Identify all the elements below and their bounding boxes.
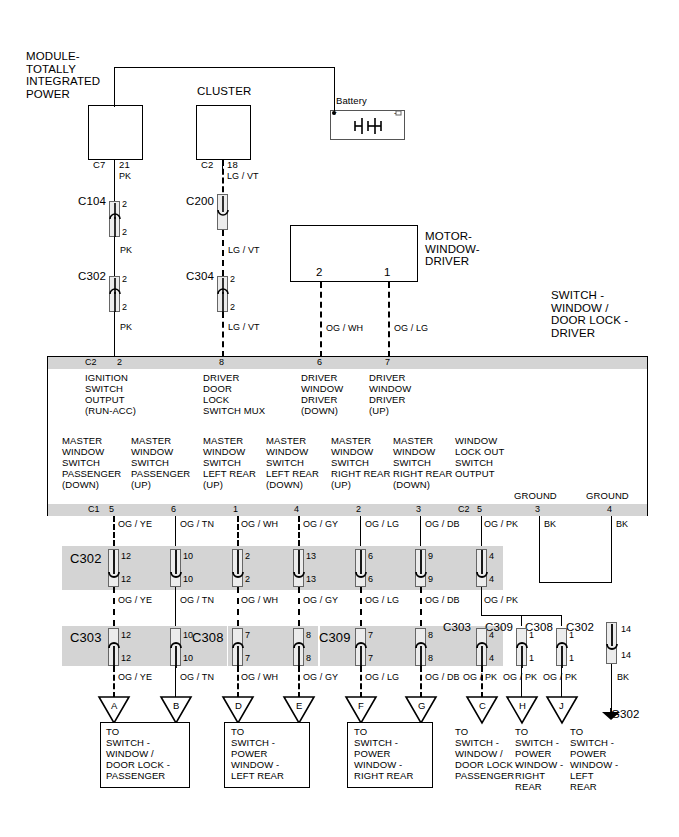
dest-tag-H-label: H [519, 700, 526, 711]
row1-pin-top-2: 2 [245, 551, 250, 561]
module-tipm-box [88, 105, 143, 160]
dest-tag-B-label: B [173, 700, 179, 711]
switch-top-pin-0: C2 [85, 357, 97, 367]
C104-pin-bottom: 2 [122, 227, 127, 237]
bottom-pin-desc-1: MASTER WINDOW SWITCH PASSENGER (UP) [131, 435, 190, 490]
bottom-pin-num-3: 4 [294, 504, 299, 514]
wire-oglg-label-2: OG / LG [365, 595, 399, 605]
bottom-pin-num-4: 2 [356, 504, 361, 514]
dest-text-j-left-rear: TO SWITCH - POWER WINDOW - LEFT REAR [570, 726, 618, 792]
wire-ogpk-label-3-c: OG / PK [463, 672, 497, 682]
bottom-pin-desc-0: MASTER WINDOW SWITCH PASSENGER (DOWN) [62, 435, 121, 490]
tipm-wire-label: PK [119, 171, 131, 181]
bottom-pin-desc-2: MASTER WINDOW SWITCH LEFT REAR (UP) [203, 435, 256, 490]
row2r-pin-top-1: 1 [529, 630, 534, 640]
wire-bk-seg3 [611, 664, 612, 712]
wire-ogtn-label-2: OG / TN [180, 595, 214, 605]
row2-connector-label-c303: C303 [70, 630, 101, 645]
wire-ogtn-seg1 [175, 516, 176, 546]
C302u-pin-bottom: 2 [122, 302, 127, 312]
top-pin-desc-1: DRIVER DOOR LOCK SWITCH MUX [203, 372, 265, 416]
motor-pin-1-label: 1 [384, 266, 391, 279]
bottom-pin-num-5: 3 [416, 504, 421, 514]
wire-pk-label-upper: PK [120, 245, 132, 255]
wire-oglg-motor [388, 282, 390, 357]
row2-pin-top-5: 8 [428, 630, 433, 640]
battery-cell-symbol [330, 110, 405, 140]
wire-bk-ground-1 [539, 516, 540, 582]
wire-oglg-seg2 [360, 587, 362, 626]
dest-tag-D-label: D [235, 700, 242, 711]
row2r-pin-top-0: 4 [489, 630, 494, 640]
C304-pin-top: 2 [230, 274, 235, 284]
dest-tag-J-label: J [559, 700, 564, 711]
wire-bk-label-2: BK [616, 519, 628, 529]
wire-ogpk-seg3-c [481, 666, 483, 698]
row1-pin-top-6: 4 [489, 551, 494, 561]
ground-join-bus [539, 582, 612, 583]
wire-ogdb-label-1: OG / DB [425, 519, 460, 529]
connector-C304-label: C304 [186, 270, 214, 283]
wire-oggy-label-3: OG / GY [303, 672, 338, 682]
row2-pin-top-1: 10 [183, 630, 193, 640]
battery-label: Battery [336, 95, 367, 106]
wire-ogye-label-1: OG / YE [118, 519, 152, 529]
row1-pin-bot-6: 4 [489, 574, 494, 584]
wire-ogtn-label-1: OG / TN [180, 519, 214, 529]
row2r-pin-bot-1: 1 [529, 653, 534, 663]
wire-ogdb-seg3 [420, 666, 422, 698]
connector-C200-label: C200 [186, 195, 214, 208]
wire-ogwh-seg1 [237, 516, 239, 546]
bottom-pin-num-2: 1 [233, 504, 238, 514]
cluster-wire-label: LG / VT [227, 171, 259, 181]
wire-ogdb-label-2: OG / DB [425, 595, 460, 605]
wire-oggy-seg2 [298, 587, 300, 626]
row2-pin-bot-3: 8 [306, 653, 311, 663]
row1-pin-bot-5: 9 [428, 574, 433, 584]
top-pin-connector-0: C2 [85, 357, 97, 367]
wire-lgvt-seg2 [222, 230, 224, 276]
tipm-pin-label: 21 [119, 159, 130, 170]
wire-pk-label-lower: PK [120, 322, 132, 332]
battery-supply-wire [334, 67, 335, 111]
wire-oglg-label-1: OG / LG [365, 519, 399, 529]
wire-ogpk-branch-h [521, 615, 522, 626]
wire-oggy-label-2: OG / GY [303, 595, 338, 605]
wire-ogwh-label-3: OG / WH [241, 672, 278, 682]
wire-bk-label-1: BK [544, 519, 556, 529]
wire-ogdb-seg2 [420, 587, 422, 626]
connector-C302-upper-label: C302 [78, 270, 106, 283]
row2r-cell-3-arrow [601, 624, 623, 666]
row2-pin-top-0: 12 [121, 630, 131, 640]
wire-ogwh-seg3 [237, 666, 239, 698]
wire-pk-seg3 [114, 312, 115, 357]
wire-bk-ground-2 [611, 516, 612, 582]
bottom-pin-num-0: 5 [109, 504, 114, 514]
top-pin-num-3: 7 [385, 357, 390, 367]
bottom-pin-connector-6: C2 [458, 504, 470, 514]
wire-ogye-seg3 [113, 666, 115, 698]
row2-pin-bot-5: 8 [428, 653, 433, 663]
wire-ogdb-seg1 [420, 516, 421, 546]
row2-pin-top-3: 8 [306, 630, 311, 640]
C104-pin-top: 2 [122, 199, 127, 209]
connector-C104-label: C104 [78, 195, 106, 208]
wire-oglg-seg3 [360, 666, 362, 698]
wire-ogwh-label-1: OG / WH [241, 519, 278, 529]
wire-oglg-label-3: OG / LG [365, 672, 399, 682]
dest-tag-C-label: C [479, 700, 486, 711]
switch-top-pin-band [48, 357, 647, 369]
wire-ogwh-seg2 [237, 587, 239, 626]
dest-tag-A-label: A [111, 700, 117, 711]
row2-connector-label-c309: C309 [319, 630, 350, 645]
motor-window-driver-box [290, 225, 418, 282]
wire-ogtn-seg3 [175, 666, 176, 698]
wire-ogpk-seg2 [481, 587, 482, 615]
dest-box-passenger-text: TO SWITCH - WINDOW / DOOR LOCK - PASSENG… [106, 726, 170, 781]
cluster-pin-label: 18 [227, 159, 238, 170]
tipm-supply-wire [114, 67, 115, 107]
bottom-pin-connector-0: C1 [88, 504, 100, 514]
top-pin-desc-2: DRIVER WINDOW DRIVER (DOWN) [301, 372, 343, 416]
bottom-pin-desc-5: MASTER WINDOW SWITCH RIGHT REAR (DOWN) [393, 435, 452, 490]
cluster-connector-label: C2 [201, 159, 213, 170]
